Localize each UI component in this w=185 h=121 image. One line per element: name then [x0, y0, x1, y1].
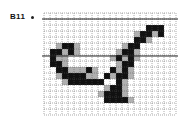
ink-cell	[56, 61, 62, 67]
gray-cell	[92, 73, 98, 79]
ink-cell	[128, 43, 134, 49]
ink-cell	[116, 97, 122, 103]
ink-cell	[116, 85, 122, 91]
ink-cell	[104, 73, 110, 79]
gray-cell	[80, 67, 86, 73]
ink-cell	[146, 25, 152, 31]
ink-cell	[68, 79, 74, 85]
gray-cell	[134, 31, 140, 37]
gray-cell	[128, 67, 134, 73]
ink-cell	[122, 67, 128, 73]
gray-cell	[62, 79, 68, 85]
gray-cell	[128, 73, 134, 79]
gray-cell	[68, 67, 74, 73]
ink-cell	[134, 37, 140, 43]
gray-cell	[74, 49, 80, 55]
gray-cell	[56, 73, 62, 79]
gray-cell	[74, 43, 80, 49]
gray-cell	[116, 67, 122, 73]
glyph-grid	[0, 0, 185, 121]
ink-cell	[128, 61, 134, 67]
ink-cell	[56, 49, 62, 55]
ink-cell	[110, 67, 116, 73]
gray-cell	[152, 31, 158, 37]
ink-cell	[62, 73, 68, 79]
gray-cell	[122, 43, 128, 49]
ink-cell	[68, 49, 74, 55]
ink-cell	[152, 25, 158, 31]
gray-cell	[128, 97, 134, 103]
ink-cell	[104, 97, 110, 103]
ink-cell	[56, 67, 62, 73]
ink-cell	[86, 79, 92, 85]
gray-cell	[116, 61, 122, 67]
ink-cell	[146, 31, 152, 37]
gray-cell	[92, 67, 98, 73]
ink-cell	[68, 73, 74, 79]
ink-cell	[74, 79, 80, 85]
ink-cell	[68, 43, 74, 49]
gray-cell	[110, 73, 116, 79]
ink-cell	[92, 79, 98, 85]
ink-cell	[104, 91, 110, 97]
ink-cell	[116, 91, 122, 97]
ink-cell	[140, 37, 146, 43]
ink-cell	[158, 25, 164, 31]
ink-cell	[74, 73, 80, 79]
ink-cell	[134, 43, 140, 49]
gray-cell	[62, 61, 68, 67]
ink-cell	[50, 49, 56, 55]
ink-cell	[140, 31, 146, 37]
ink-cell	[116, 73, 122, 79]
ink-cell	[158, 31, 164, 37]
ink-cell	[110, 97, 116, 103]
ink-cell	[122, 49, 128, 55]
ink-cell	[98, 79, 104, 85]
ink-cell	[122, 97, 128, 103]
gray-cell	[104, 85, 110, 91]
gray-cell	[74, 67, 80, 73]
gray-cell	[146, 37, 152, 43]
ink-cell	[62, 67, 68, 73]
ink-cell	[128, 49, 134, 55]
gray-cell	[62, 49, 68, 55]
gray-cell	[122, 85, 128, 91]
ink-cell	[80, 73, 86, 79]
gray-cell	[86, 73, 92, 79]
ink-cell	[110, 91, 116, 97]
gray-cell	[122, 91, 128, 97]
ink-cell	[86, 67, 92, 73]
gray-cell	[98, 91, 104, 97]
gray-cell	[122, 79, 128, 85]
ink-cell	[122, 73, 128, 79]
ink-cell	[122, 61, 128, 67]
gray-cell	[116, 49, 122, 55]
gray-cell	[134, 49, 140, 55]
ink-cell	[62, 43, 68, 49]
ink-cell	[116, 79, 122, 85]
ink-cell	[50, 61, 56, 67]
ink-cell	[110, 85, 116, 91]
ink-cell	[80, 79, 86, 85]
gray-cell	[56, 43, 62, 49]
